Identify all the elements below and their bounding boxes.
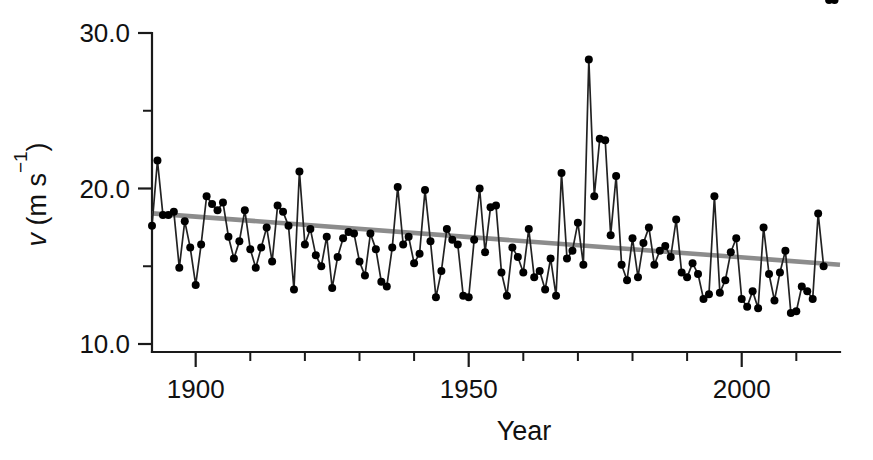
data-point-marker — [175, 264, 183, 272]
data-point-marker — [661, 242, 669, 250]
data-point-marker — [585, 55, 593, 63]
data-point-marker — [650, 261, 658, 269]
data-point-marker — [426, 237, 434, 245]
data-point-marker — [470, 236, 478, 244]
data-point-marker — [208, 200, 216, 208]
data-point-marker — [443, 225, 451, 233]
data-point-marker — [634, 273, 642, 281]
data-point-marker — [246, 245, 254, 253]
data-point-marker — [694, 270, 702, 278]
data-point-marker — [224, 233, 232, 241]
series-polyline — [152, 59, 824, 312]
data-point-marker — [683, 273, 691, 281]
data-point-marker — [579, 261, 587, 269]
data-point-marker — [372, 245, 380, 253]
data-point-marker — [727, 248, 735, 256]
data-point-marker — [776, 268, 784, 276]
y-axis-title: v (m s−1) — [10, 142, 53, 246]
data-point-marker — [241, 206, 249, 214]
data-point-marker — [547, 254, 555, 262]
data-point-marker — [219, 198, 227, 206]
data-point-marker — [568, 247, 576, 255]
data-point-marker — [263, 223, 271, 231]
y-axis-tick-label: 20.0 — [79, 174, 130, 204]
data-point-marker — [268, 258, 276, 266]
data-point-marker — [721, 276, 729, 284]
data-point-marker — [672, 216, 680, 224]
data-point-marker — [749, 287, 757, 295]
data-point-marker — [612, 172, 620, 180]
figure-container: 10.020.030.0190019502000Yearv (m s−1) — [0, 0, 873, 460]
data-point-marker — [803, 287, 811, 295]
data-point-marker — [558, 169, 566, 177]
data-point-marker — [252, 264, 260, 272]
data-point-marker — [508, 244, 516, 252]
data-point-marker — [181, 217, 189, 225]
data-point-marker — [153, 157, 161, 165]
data-point-marker — [235, 237, 243, 245]
data-point-marker — [394, 183, 402, 191]
data-point-marker — [290, 286, 298, 294]
data-point-marker — [814, 209, 822, 217]
data-point-marker — [639, 239, 647, 247]
data-point-marker — [525, 225, 533, 233]
x-axis-title: Year — [497, 416, 552, 446]
data-point-marker — [257, 244, 265, 252]
wind-speed-time-series-chart: 10.020.030.0190019502000Yearv (m s−1) — [0, 0, 873, 460]
data-point-marker — [383, 282, 391, 290]
x-axis-tick-label: 2000 — [713, 374, 771, 404]
data-point-marker — [279, 208, 287, 216]
data-point-marker — [770, 296, 778, 304]
data-point-marker — [274, 202, 282, 210]
data-point-marker — [214, 206, 222, 214]
data-point-marker — [317, 262, 325, 270]
data-point-marker — [497, 268, 505, 276]
data-point-marker — [203, 192, 211, 200]
data-point-marker — [399, 240, 407, 248]
data-point-marker — [601, 136, 609, 144]
data-point-marker — [831, 0, 839, 4]
x-axis-tick-label: 1900 — [167, 374, 225, 404]
data-point-marker — [170, 208, 178, 216]
data-point-marker — [366, 230, 374, 238]
data-point-marker — [197, 240, 205, 248]
data-point-marker — [285, 222, 293, 230]
data-point-marker — [410, 259, 418, 267]
data-point-marker — [355, 258, 363, 266]
data-point-marker — [148, 222, 156, 230]
data-point-marker — [563, 254, 571, 262]
data-point-marker — [618, 261, 626, 269]
data-point-marker — [328, 284, 336, 292]
data-point-marker — [629, 234, 637, 242]
data-point-marker — [541, 286, 549, 294]
data-point-marker — [361, 272, 369, 280]
data-point-marker — [492, 202, 500, 210]
data-point-marker — [405, 233, 413, 241]
data-point-marker — [781, 247, 789, 255]
data-point-marker — [323, 233, 331, 241]
data-point-marker — [574, 219, 582, 227]
data-point-marker — [186, 244, 194, 252]
data-point-marker — [295, 167, 303, 175]
data-point-marker — [743, 303, 751, 311]
data-point-marker — [667, 253, 675, 261]
data-point-marker — [607, 231, 615, 239]
data-point-marker — [716, 289, 724, 297]
data-point-marker — [645, 223, 653, 231]
data-point-marker — [514, 253, 522, 261]
data-point-marker — [536, 267, 544, 275]
data-point-marker — [312, 251, 320, 259]
y-axis-tick-label: 30.0 — [79, 18, 130, 48]
data-point-marker — [339, 234, 347, 242]
data-point-marker — [476, 185, 484, 193]
data-point-marker — [732, 234, 740, 242]
data-point-marker — [760, 223, 768, 231]
data-point-marker — [334, 253, 342, 261]
data-point-marker — [437, 267, 445, 275]
data-point-marker — [421, 186, 429, 194]
data-point-marker — [301, 240, 309, 248]
data-point-marker — [689, 259, 697, 267]
data-point-marker — [416, 250, 424, 258]
data-point-marker — [809, 295, 817, 303]
data-point-marker — [738, 295, 746, 303]
